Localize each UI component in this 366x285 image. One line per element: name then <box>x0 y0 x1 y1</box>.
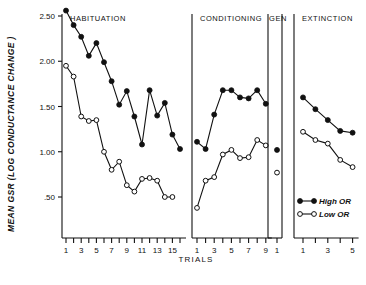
data-point-high-or <box>155 113 160 118</box>
x-tick-label: 9 <box>264 246 269 255</box>
data-point-high-or <box>220 88 225 93</box>
x-tick-label: 3 <box>79 246 84 255</box>
data-point-high-or <box>140 142 145 147</box>
panel-title-extinction: EXTINCTION <box>302 14 353 23</box>
legend-marker-high-or <box>298 199 303 204</box>
data-point-low-or <box>132 189 137 194</box>
x-tick-label: 3 <box>212 246 217 255</box>
data-point-low-or <box>140 177 145 182</box>
x-tick-label: 9 <box>125 246 130 255</box>
gsr-line-chart-figure: MEAN GSR (LOG CONDUCTANCE CHANGE )2.502.… <box>0 0 366 285</box>
data-point-low-or <box>170 195 175 200</box>
data-point-high-or <box>301 95 306 100</box>
data-point-high-or <box>338 128 343 133</box>
data-point-low-or <box>86 119 91 124</box>
x-tick-label: 11 <box>138 246 147 255</box>
data-point-low-or <box>350 165 355 170</box>
data-point-low-or <box>124 183 129 188</box>
data-point-high-or <box>212 112 217 117</box>
y-tick-label: 1.50 <box>39 103 55 112</box>
series-line-high-or <box>66 11 180 149</box>
data-point-high-or <box>79 34 84 39</box>
data-point-high-or <box>313 107 318 112</box>
data-point-high-or <box>71 23 76 28</box>
data-point-high-or <box>117 102 122 107</box>
legend-label-low-or: Low OR <box>319 210 349 219</box>
data-point-high-or <box>203 147 208 152</box>
data-point-high-or <box>350 130 355 135</box>
data-point-high-or <box>64 8 69 13</box>
chart-canvas: MEAN GSR (LOG CONDUCTANCE CHANGE )2.502.… <box>0 0 366 285</box>
panel-title-gen: GEN <box>269 14 287 23</box>
y-tick-label: .50 <box>44 193 56 202</box>
data-point-low-or <box>229 148 234 153</box>
data-point-low-or <box>162 195 167 200</box>
x-tick-label: 5 <box>94 246 99 255</box>
data-point-low-or <box>246 155 251 160</box>
x-tick-label: 13 <box>153 246 162 255</box>
data-point-low-or <box>147 176 152 181</box>
x-tick-label: 5 <box>229 246 234 255</box>
data-point-low-or <box>203 178 208 183</box>
data-point-high-or <box>86 53 91 58</box>
data-point-high-or <box>325 118 330 123</box>
data-point-high-or <box>238 95 243 100</box>
data-point-high-or <box>109 79 114 84</box>
data-point-low-or <box>109 167 114 172</box>
data-point-high-or <box>229 88 234 93</box>
panel-title-habituation: HABITUATION <box>70 14 126 23</box>
y-tick-label: 2.50 <box>39 12 55 21</box>
data-point-high-or <box>102 60 107 65</box>
data-point-low-or <box>94 118 99 123</box>
data-point-low-or <box>195 206 200 211</box>
data-point-low-or <box>275 170 280 175</box>
data-point-high-or <box>170 132 175 137</box>
data-point-low-or <box>301 129 306 134</box>
data-point-high-or <box>162 100 167 105</box>
legend-marker-end-high-or <box>312 199 317 204</box>
y-tick-label: 2.00 <box>39 57 55 66</box>
data-point-high-or <box>255 88 260 93</box>
y-tick-label: 1.00 <box>39 148 55 157</box>
x-tick-label: 1 <box>64 246 69 255</box>
legend-label-high-or: High OR <box>319 197 351 206</box>
x-tick-label: 3 <box>326 246 331 255</box>
data-point-high-or <box>195 139 200 144</box>
data-point-high-or <box>246 96 251 101</box>
legend-marker-end-low-or <box>312 212 317 217</box>
data-point-low-or <box>79 114 84 119</box>
x-tick-label: 7 <box>246 246 251 255</box>
panel-title-conditioning: CONDITIONING <box>200 14 262 23</box>
x-axis-label: TRIALS <box>178 255 213 264</box>
data-point-low-or <box>238 156 243 161</box>
x-tick-label: 1 <box>275 246 280 255</box>
data-point-low-or <box>220 152 225 157</box>
x-tick-label: 5 <box>350 246 355 255</box>
data-point-high-or <box>178 147 183 152</box>
data-point-low-or <box>325 141 330 146</box>
data-point-low-or <box>255 138 260 143</box>
series-line-low-or <box>66 66 172 197</box>
data-point-high-or <box>132 114 137 119</box>
data-point-high-or <box>94 41 99 46</box>
data-point-low-or <box>338 158 343 163</box>
data-point-low-or <box>102 149 107 154</box>
data-point-high-or <box>147 88 152 93</box>
data-point-low-or <box>71 74 76 79</box>
y-axis-label: MEAN GSR (LOG CONDUCTANCE CHANGE ) <box>6 36 16 232</box>
data-point-low-or <box>313 138 318 143</box>
data-point-low-or <box>117 159 122 164</box>
x-tick-label: 1 <box>301 246 306 255</box>
x-tick-label: 15 <box>168 246 177 255</box>
series-line-high-or <box>303 97 353 132</box>
legend-marker-low-or <box>298 212 303 217</box>
data-point-low-or <box>155 178 160 183</box>
data-point-high-or <box>275 147 280 152</box>
data-point-low-or <box>212 175 217 180</box>
x-tick-label: 7 <box>109 246 114 255</box>
data-point-high-or <box>124 89 129 94</box>
data-point-low-or <box>64 63 69 68</box>
x-tick-label: 1 <box>195 246 200 255</box>
series-line-low-or <box>303 132 353 167</box>
